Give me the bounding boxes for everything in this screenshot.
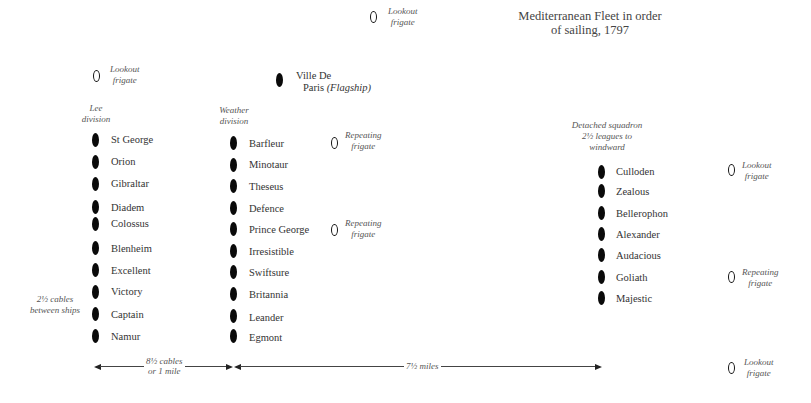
ship-icon <box>92 307 99 321</box>
flagship-note: (Flagship) <box>327 82 371 93</box>
left-lookout-label: Lookout frigate <box>110 64 140 86</box>
ship-name: Zealous <box>616 186 649 198</box>
repeating-frigate-icon <box>728 271 735 283</box>
label-line: frigate <box>345 229 382 240</box>
ship-name: Defence <box>249 203 284 215</box>
ship-icon <box>230 287 237 301</box>
label-line: frigate <box>388 17 418 28</box>
ship-name: Majestic <box>616 293 652 305</box>
lookout-frigate-icon <box>728 362 735 374</box>
ship-icon <box>598 270 605 284</box>
ship-name: Goliath <box>616 272 648 284</box>
ship-icon <box>92 155 99 169</box>
ship-icon <box>598 165 605 179</box>
ship-icon <box>230 201 237 215</box>
ship-icon <box>230 265 237 279</box>
ship-icon <box>598 206 605 220</box>
ship-name: Minotaur <box>249 159 288 171</box>
repeating-frigate-icon <box>331 137 338 149</box>
repeating-frigate-label: Repeating frigate <box>345 218 382 240</box>
flagship-name-line-2: Paris (Flagship) <box>296 82 371 94</box>
repeating-frigate-icon <box>331 224 338 236</box>
ship-icon <box>230 179 237 193</box>
ship-icon <box>92 263 99 277</box>
ship-icon <box>598 227 605 241</box>
fleet-diagram: Mediterranean Fleet in order of sailing,… <box>0 0 811 403</box>
arrow-left-icon <box>94 364 101 370</box>
title-line-1: Mediterranean Fleet in order <box>490 9 690 23</box>
ship-name: Colossus <box>111 218 149 230</box>
ship-icon <box>230 222 237 236</box>
ship-name: Swiftsure <box>249 267 289 279</box>
ship-icon <box>230 158 237 172</box>
detached-squadron-label: Detached squadron 2½ leagues to windward <box>562 120 652 153</box>
ship-name: Audacious <box>616 250 661 262</box>
title-line-2: of sailing, 1797 <box>490 23 690 37</box>
ship-icon <box>92 329 99 343</box>
ship-name: Blenheim <box>111 243 152 255</box>
lee-division-label: Lee division <box>80 103 112 125</box>
arrow-right-icon <box>226 364 233 370</box>
ship-name: Leander <box>249 312 283 324</box>
label-line: between ships <box>26 305 84 316</box>
ship-name: Egmont <box>249 332 282 344</box>
ship-icon <box>92 285 99 299</box>
label-line: Lookout <box>388 6 418 17</box>
label-line: frigate <box>742 278 779 289</box>
label-line: frigate <box>345 141 382 152</box>
ship-icon <box>92 200 99 214</box>
bottom-lookout-label: Lookout frigate <box>744 357 774 379</box>
ship-icon <box>92 241 99 255</box>
ship-icon <box>92 133 99 147</box>
label-line: Lookout <box>744 357 774 368</box>
label-line: 2½ cables <box>26 294 84 305</box>
label-line: or 1 mile <box>146 366 183 376</box>
flagship-name: Paris <box>303 82 324 93</box>
label-line: 8½ cables <box>146 356 183 366</box>
label-line: Repeating <box>742 267 779 278</box>
label-line: division <box>214 116 254 127</box>
ship-spacing-annotation: 2½ cables between ships <box>26 294 84 316</box>
ship-icon <box>230 309 237 323</box>
lookout-frigate-icon <box>93 70 100 82</box>
ship-name: Alexander <box>616 229 660 241</box>
label-line: Weather <box>214 105 254 116</box>
ship-name: Theseus <box>249 181 283 193</box>
ship-name: Namur <box>111 331 140 343</box>
label-line: windward <box>562 142 652 153</box>
ship-name: Culloden <box>616 166 655 178</box>
label-line: Lookout <box>742 160 772 171</box>
ship-name: Victory <box>111 286 142 298</box>
label-line: frigate <box>110 75 140 86</box>
ship-icon <box>230 136 237 150</box>
flagship-name-line-1: Ville De <box>296 70 371 82</box>
label-line: frigate <box>744 368 774 379</box>
flagship-icon <box>276 73 283 87</box>
arrow-right-icon <box>595 364 602 370</box>
ship-name: Britannia <box>249 289 288 301</box>
label-line: division <box>80 114 112 125</box>
ship-name: Gibraltar <box>111 178 149 190</box>
ship-name: St George <box>111 134 153 146</box>
flagship-label: Ville De Paris (Flagship) <box>296 70 371 94</box>
label-line: frigate <box>742 171 772 182</box>
lookout-frigate-icon <box>728 164 735 176</box>
ship-name: Prince George <box>249 224 309 236</box>
ship-icon <box>92 177 99 191</box>
ship-icon <box>598 248 605 262</box>
ship-name: Orion <box>111 156 136 168</box>
label-line: Repeating <box>345 130 382 141</box>
ship-name: Irresistible <box>249 246 294 258</box>
ship-icon <box>92 217 99 231</box>
lookout-frigate-icon <box>370 11 377 23</box>
label-line: Lee <box>80 103 112 114</box>
label-line: Lookout <box>110 64 140 75</box>
distance-2-label: 7½ miles <box>404 361 441 371</box>
ship-name: Bellerophon <box>616 208 668 220</box>
ship-name: Barfleur <box>249 138 284 150</box>
repeating-frigate-label: Repeating frigate <box>345 130 382 152</box>
arrow-left-icon <box>234 364 241 370</box>
distance-1-label: 8½ cables or 1 mile <box>144 356 185 376</box>
label-line: Detached squadron <box>562 120 652 131</box>
label-line: 2½ leagues to <box>562 131 652 142</box>
